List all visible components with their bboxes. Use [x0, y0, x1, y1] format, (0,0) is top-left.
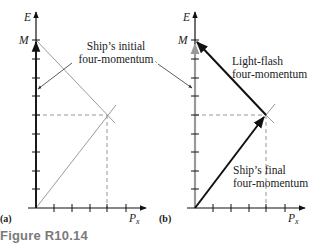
final-label-line1: Ship’s final	[233, 164, 286, 177]
light-line-from-origin	[36, 105, 116, 208]
panel-b: E M Px Light-flash four-momentum Ship’s …	[158, 11, 308, 226]
initial-annotation-line2: four-momentum	[78, 53, 153, 65]
e-axis-label: E	[23, 11, 31, 23]
light-line-extension	[266, 104, 275, 115]
panel-a: E M Px Ship’s initial four-momentum (a)	[0, 11, 157, 226]
panel-b-tag: (b)	[159, 213, 171, 225]
final-four-momentum-arrow	[195, 117, 264, 208]
light-flash-label-line2: four-momentum	[232, 68, 307, 80]
final-label-line2: four-momentum	[233, 177, 308, 189]
light-flash-label-line1: Light-flash	[232, 55, 283, 68]
leader-tail	[155, 61, 157, 63]
initial-leader-a	[38, 63, 72, 89]
light-line-extension	[266, 115, 274, 123]
m-label: M	[177, 34, 189, 46]
panel-a-tag: (a)	[0, 213, 12, 225]
figure-caption: Figure R10.14	[0, 228, 88, 243]
figure-canvas: E M Px Ship’s initial four-momentum (a)	[0, 0, 318, 246]
initial-annotation-line1: Ship’s initial	[87, 40, 145, 53]
e-axis-label: E	[182, 11, 190, 23]
px-axis-label: Px	[128, 212, 140, 226]
initial-leader-b	[158, 64, 192, 88]
px-axis-label: Px	[287, 212, 299, 226]
m-label: M	[18, 34, 30, 46]
